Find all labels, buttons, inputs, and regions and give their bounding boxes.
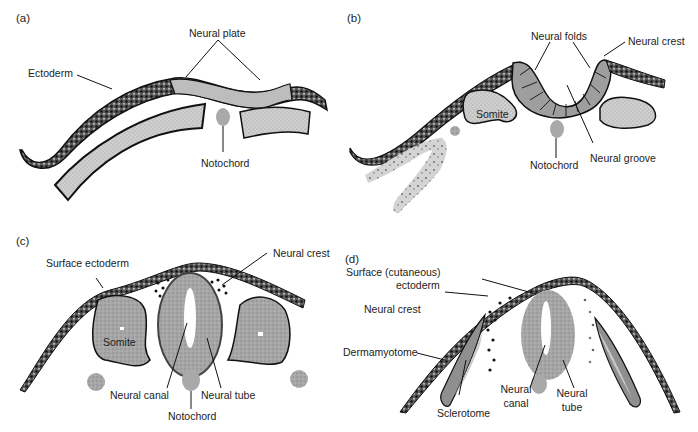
somite-c-left <box>93 296 150 366</box>
panel-label-d: (d) <box>345 253 359 265</box>
figure: (a) (b) (c) (d) Ectoderm Neural plate No… <box>0 0 698 432</box>
label-surface-cutaneous: Surface (cutaneous) <box>346 266 441 278</box>
label-neural-crest-b: Neural crest <box>628 35 685 47</box>
panel-label-a: (a) <box>16 12 30 24</box>
label-somite-c: Somite <box>103 336 136 348</box>
label-dermamyotome: Dermamyotome <box>343 346 418 358</box>
neural-canal-c <box>184 288 196 348</box>
mesoderm-a-left <box>55 104 205 200</box>
label-notochord-b: Notochord <box>530 159 578 171</box>
label-neural-groove: Neural groove <box>590 152 656 164</box>
label-neural-tube-d-1: Neural <box>552 387 592 399</box>
label-surface-ectoderm: Surface ectoderm <box>46 257 129 269</box>
notochord-b <box>550 120 564 138</box>
panel-d-drawing <box>400 277 680 413</box>
panel-b-drawing <box>350 42 665 213</box>
label-neural-folds: Neural folds <box>531 30 587 42</box>
label-sclerotome: Sclerotome <box>437 407 490 419</box>
notochord-c <box>182 369 200 391</box>
label-neural-canal-d-1: Neural <box>496 383 536 395</box>
panel-label-c: (c) <box>16 235 29 247</box>
somite-c-right <box>228 297 290 364</box>
neural-plate-a <box>170 79 292 108</box>
label-neural-crest-c: Neural crest <box>273 247 330 259</box>
label-ectoderm: Ectoderm <box>28 67 73 79</box>
panel-label-b: (b) <box>347 12 361 24</box>
ectoderm-b-right <box>606 60 665 88</box>
notochord-a <box>216 108 230 126</box>
panel-a-drawing <box>20 40 327 200</box>
diagram-canvas <box>0 0 698 432</box>
label-neural-tube-d-2: tube <box>552 401 592 413</box>
label-neural-canal: Neural canal <box>110 389 169 401</box>
label-neural-tube-c: Neural tube <box>201 389 255 401</box>
label-somite-b: Somite <box>476 108 509 120</box>
label-ectoderm-d: ectoderm <box>396 279 440 291</box>
panel-c-drawing <box>20 253 308 409</box>
mesoderm-a-right <box>240 107 310 138</box>
label-neural-crest-d: Neural crest <box>364 303 421 315</box>
label-notochord-a: Notochord <box>201 157 249 169</box>
label-neural-plate: Neural plate <box>189 27 246 39</box>
neural-canal-d <box>541 301 551 355</box>
sclerotome-d-right <box>598 330 632 398</box>
label-notochord-c: Notochord <box>168 410 216 422</box>
label-neural-canal-d-2: canal <box>496 397 536 409</box>
somite-b-right <box>600 97 656 128</box>
